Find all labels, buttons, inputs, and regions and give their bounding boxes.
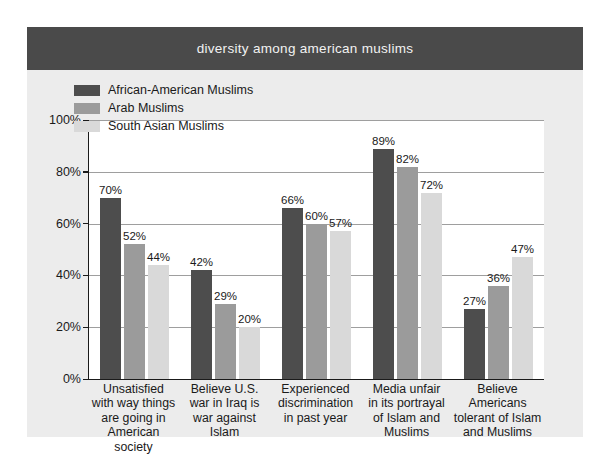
legend-swatch	[74, 103, 100, 114]
y-tick-mark	[83, 275, 88, 276]
x-axis-label: BelieveAmericanstolerant of Islamand Mus…	[444, 382, 551, 440]
bar-value-label: 82%	[396, 153, 419, 165]
bar[interactable]: 52%	[124, 244, 145, 379]
y-tick-label: 80%	[56, 165, 81, 179]
chart-region: 70%52%44%42%29%20%66%60%57%89%82%72%27%3…	[27, 70, 583, 437]
bar[interactable]: 89%	[373, 149, 394, 380]
bar-value-label: 36%	[487, 272, 510, 284]
bar[interactable]: 42%	[191, 270, 212, 379]
bar-value-label: 52%	[123, 230, 146, 242]
legend-item[interactable]: Arab Muslims	[74, 100, 253, 116]
bar-value-label: 42%	[190, 256, 213, 268]
bar-group: 70%52%44%	[89, 120, 180, 379]
chart-legend: African-American MuslimsArab MuslimsSout…	[74, 82, 253, 136]
bar[interactable]: 44%	[148, 265, 169, 379]
bar-value-label: 70%	[99, 184, 122, 196]
bar-value-label: 44%	[147, 251, 170, 263]
legend-label: African-American Muslims	[108, 83, 253, 97]
y-tick-label: 20%	[56, 320, 81, 334]
poster-page: diversity among american muslims 70%52%4…	[27, 27, 583, 437]
bar-value-label: 60%	[305, 210, 328, 222]
bar-value-label: 29%	[214, 290, 237, 302]
y-tick-mark	[83, 379, 88, 380]
y-tick-mark	[83, 171, 88, 172]
bar-value-label: 89%	[372, 135, 395, 147]
bar-value-label: 72%	[420, 179, 443, 191]
bar[interactable]: 66%	[282, 208, 303, 379]
bar[interactable]: 82%	[397, 167, 418, 379]
bar[interactable]: 47%	[512, 257, 533, 379]
bar-value-label: 20%	[238, 313, 261, 325]
legend-swatch	[74, 85, 100, 96]
y-tick-label: 40%	[56, 268, 81, 282]
bar-value-label: 66%	[281, 194, 304, 206]
bar-value-label: 27%	[463, 295, 486, 307]
y-tick-mark	[83, 223, 88, 224]
bar[interactable]: 29%	[215, 304, 236, 379]
legend-label: Arab Muslims	[108, 101, 184, 115]
legend-swatch	[74, 121, 100, 132]
bar[interactable]: 20%	[239, 327, 260, 379]
bar-group: 89%82%72%	[362, 120, 453, 379]
y-tick-mark	[83, 327, 88, 328]
legend-label: South Asian Muslims	[108, 119, 224, 133]
bar[interactable]: 36%	[488, 286, 509, 379]
header-band: diversity among american muslims	[27, 27, 583, 70]
bar[interactable]: 60%	[306, 224, 327, 379]
bar-value-label: 57%	[329, 217, 352, 229]
legend-item[interactable]: African-American Muslims	[74, 82, 253, 98]
bar[interactable]: 27%	[464, 309, 485, 379]
y-tick-label: 60%	[56, 217, 81, 231]
bar-group: 42%29%20%	[180, 120, 271, 379]
bar[interactable]: 72%	[421, 193, 442, 379]
bar[interactable]: 70%	[100, 198, 121, 379]
legend-item[interactable]: South Asian Muslims	[74, 118, 253, 134]
y-tick-label: 0%	[63, 372, 81, 386]
bar-value-label: 47%	[511, 243, 534, 255]
bar-group: 66%60%57%	[271, 120, 362, 379]
page-title: diversity among american muslims	[27, 27, 583, 70]
bar-group: 27%36%47%	[453, 120, 544, 379]
plot-area: 70%52%44%42%29%20%66%60%57%89%82%72%27%3…	[88, 120, 544, 380]
bar[interactable]: 57%	[330, 231, 351, 379]
